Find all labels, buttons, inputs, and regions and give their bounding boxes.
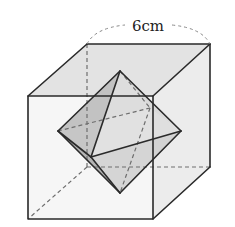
dimension-arc-left bbox=[87, 25, 125, 44]
dimension-label: 6cm bbox=[132, 17, 164, 35]
cube-octahedron-diagram: 6cm bbox=[0, 0, 235, 227]
dimension-arc-right bbox=[172, 25, 210, 44]
